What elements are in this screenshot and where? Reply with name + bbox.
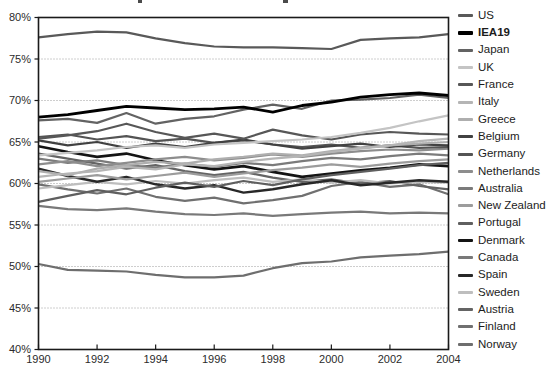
legend-swatch-norway: [458, 343, 473, 346]
x-axis-label-1994: 1994: [143, 353, 167, 365]
legend-item-italy: Italy: [458, 93, 554, 110]
series-line-iea19: [39, 93, 449, 117]
legend-swatch-austria: [458, 308, 473, 311]
legend-label-norway: Norway: [478, 339, 517, 351]
legend-label-germany: Germany: [478, 148, 525, 160]
legend-label-iea19: IEA19: [478, 27, 510, 39]
y-axis-label-55: 55%: [9, 219, 31, 231]
legend-item-denmark: Denmark: [458, 232, 554, 249]
y-axis-label-50: 50%: [9, 260, 31, 272]
x-axis-label-2004: 2004: [436, 353, 460, 365]
legend-item-portugal: Portugal: [458, 215, 554, 232]
legend-item-spain: Spain: [458, 266, 554, 283]
legend-label-france: France: [478, 79, 514, 91]
legend-label-japan: Japan: [478, 44, 509, 56]
legend-item-sweden: Sweden: [458, 284, 554, 301]
legend-label-austria: Austria: [478, 304, 514, 316]
legend-swatch-denmark: [458, 239, 473, 242]
legend-swatch-france: [458, 83, 473, 86]
legend-label-uk: UK: [478, 62, 494, 74]
legend-swatch-new-zealand: [458, 204, 473, 207]
legend-item-greece: Greece: [458, 111, 554, 128]
legend-item-finland: Finland: [458, 318, 554, 335]
series-line-norway: [39, 252, 449, 278]
legend-label-us: US: [478, 10, 494, 22]
y-axis-label-75: 75%: [9, 53, 31, 65]
x-axis-label-1990: 1990: [26, 353, 50, 365]
y-axis-label-60: 60%: [9, 177, 31, 189]
y-axis-label-65: 65%: [9, 136, 31, 148]
series-line-us: [39, 32, 449, 49]
x-axis-label-2002: 2002: [378, 353, 402, 365]
legend-label-australia: Australia: [478, 183, 523, 195]
legend-item-germany: Germany: [458, 145, 554, 162]
series-line-france: [39, 124, 449, 140]
legend-swatch-germany: [458, 153, 473, 156]
legend-swatch-finland: [458, 325, 473, 328]
x-axis-label-2000: 2000: [319, 353, 343, 365]
x-axis-label-1998: 1998: [261, 353, 285, 365]
legend-swatch-greece: [458, 118, 473, 121]
legend-item-norway: Norway: [458, 336, 554, 353]
x-axis-label-1992: 1992: [85, 353, 109, 365]
legend-swatch-us: [458, 14, 473, 17]
legend-swatch-spain: [458, 274, 473, 277]
legend-label-netherlands: Netherlands: [478, 166, 540, 178]
legend-item-us: US: [458, 7, 554, 24]
legend-item-uk: UK: [458, 59, 554, 76]
legend-item-new-zealand: New Zealand: [458, 197, 554, 214]
legend-label-denmark: Denmark: [478, 235, 525, 247]
legend-item-netherlands: Netherlands: [458, 163, 554, 180]
legend-swatch-sweden: [458, 291, 473, 294]
legend-label-italy: Italy: [478, 96, 499, 108]
legend-swatch-belgium: [458, 135, 473, 138]
legend-swatch-uk: [458, 66, 473, 69]
y-axis-label-70: 70%: [9, 94, 31, 106]
legend-label-new-zealand: New Zealand: [478, 200, 546, 212]
legend-label-greece: Greece: [478, 114, 516, 126]
chart-legend: USIEA19JapanUKFranceItalyGreeceBelgiumGe…: [458, 7, 554, 353]
series-line-canada: [39, 206, 449, 216]
legend-item-austria: Austria: [458, 301, 554, 318]
legend-label-portugal: Portugal: [478, 217, 521, 229]
chart-figure: 40%45%50%55%60%65%70%75%80%1990199219941…: [0, 0, 554, 378]
x-axis-label-1996: 1996: [202, 353, 226, 365]
y-axis-label-80: 80%: [9, 11, 31, 23]
legend-item-australia: Australia: [458, 180, 554, 197]
legend-swatch-netherlands: [458, 170, 473, 173]
legend-swatch-iea19: [458, 31, 473, 35]
legend-swatch-portugal: [458, 222, 473, 225]
legend-item-japan: Japan: [458, 42, 554, 59]
legend-item-belgium: Belgium: [458, 128, 554, 145]
legend-swatch-australia: [458, 187, 473, 190]
legend-swatch-canada: [458, 256, 473, 259]
legend-label-finland: Finland: [478, 321, 516, 333]
legend-item-iea19: IEA19: [458, 24, 554, 41]
legend-item-france: France: [458, 76, 554, 93]
legend-swatch-italy: [458, 101, 473, 104]
legend-swatch-japan: [458, 49, 473, 52]
legend-label-spain: Spain: [478, 269, 507, 281]
legend-item-canada: Canada: [458, 249, 554, 266]
legend-label-canada: Canada: [478, 252, 518, 264]
legend-label-belgium: Belgium: [478, 131, 520, 143]
y-axis-label-45: 45%: [9, 302, 31, 314]
legend-label-sweden: Sweden: [478, 287, 520, 299]
